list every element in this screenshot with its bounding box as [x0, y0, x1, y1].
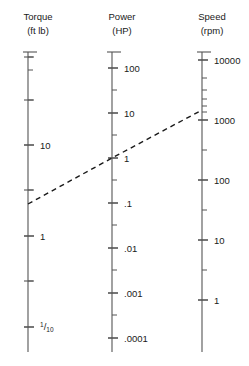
tick-label-speed-2: 100 [214, 175, 230, 186]
tick-label-torque-1: 1 [40, 231, 45, 242]
axis-title-speed: Speed [198, 11, 225, 22]
nomogram-canvas: Torque(ft lb)1011/10Power(HP)100101.1.01… [0, 0, 249, 366]
tick-label-power-4: .01 [124, 243, 137, 254]
tick-label-speed-1: 1000 [214, 115, 235, 126]
tick-label-power-0: 100 [124, 63, 140, 74]
tick-label-speed-4: 1 [214, 295, 219, 306]
tick-label-torque-0: 10 [40, 140, 51, 151]
axis-torque: Torque(ft lb)1011/10 [23, 11, 54, 352]
tick-label-speed-0: 10000 [214, 55, 240, 66]
tick-label-power-3: .1 [124, 198, 132, 209]
tick-label-torque-fraction: 1/10 [40, 321, 54, 333]
axis-power: Power(HP)100101.1.01.001.0001 [107, 11, 148, 352]
tick-label-power-6: .0001 [124, 333, 148, 344]
axis-speed: Speed(rpm)100001000100101 [197, 11, 240, 352]
axis-title-power: Power [109, 11, 136, 22]
axis-unit-torque: (ft lb) [27, 25, 49, 36]
tick-label-speed-3: 10 [214, 235, 225, 246]
axis-title-torque: Torque [23, 11, 52, 22]
tick-label-power-1: 10 [124, 108, 135, 119]
tick-label-power-2: 1 [124, 153, 129, 164]
axis-unit-power: (HP) [112, 25, 132, 36]
alignment-index-line [28, 110, 202, 204]
axis-unit-speed: (rpm) [201, 25, 224, 36]
tick-label-power-5: .001 [124, 288, 143, 299]
nomogram-figure: Torque(ft lb)1011/10Power(HP)100101.1.01… [0, 0, 249, 366]
